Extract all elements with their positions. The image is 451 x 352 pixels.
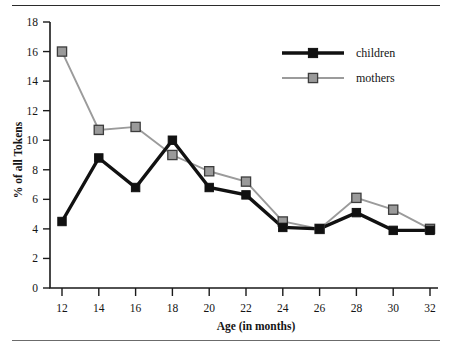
legend-label-mothers: mothers — [356, 71, 395, 85]
data-point-marker-children — [58, 217, 66, 225]
x-tick-label: 30 — [387, 302, 399, 314]
y-axis-ticks: 024681012141618 — [27, 16, 51, 294]
legend-label-children: children — [356, 46, 395, 60]
data-point-marker-mothers — [94, 125, 103, 134]
x-tick-label: 26 — [314, 302, 326, 314]
x-tick-label: 16 — [130, 302, 142, 314]
data-point-marker-mothers — [168, 150, 177, 159]
data-point-marker-children — [168, 136, 176, 144]
x-tick-label: 32 — [424, 302, 436, 314]
x-tick-label: 20 — [203, 302, 215, 314]
x-tick-label: 28 — [351, 302, 363, 314]
data-point-marker-mothers — [389, 205, 398, 214]
x-axis-ticks: 1214161820222426283032 — [56, 288, 436, 314]
y-tick-label: 16 — [27, 46, 39, 58]
line-chart-plot: 024681012141618 1214161820222426283032 c… — [0, 0, 451, 352]
x-tick-label: 22 — [240, 302, 252, 314]
y-tick-label: 12 — [27, 105, 39, 117]
data-point-marker-mothers — [57, 47, 66, 56]
axis-spines — [50, 22, 438, 288]
legend-swatch-marker-children — [308, 48, 317, 57]
data-point-marker-children — [95, 154, 103, 162]
x-tick-label: 18 — [167, 302, 179, 314]
y-tick-label: 2 — [32, 252, 38, 264]
data-point-marker-children — [389, 226, 397, 234]
y-axis-title: % of all Tokens — [12, 121, 24, 198]
legend-swatch-marker-mothers — [308, 73, 317, 82]
data-point-marker-children — [426, 226, 434, 234]
chart-legend: childrenmothers — [282, 46, 395, 85]
y-tick-label: 10 — [27, 134, 39, 146]
y-tick-label: 18 — [27, 16, 39, 28]
y-tick-label: 8 — [32, 164, 38, 176]
y-tick-label: 6 — [32, 193, 38, 205]
x-axis-title: Age (in months) — [217, 320, 296, 333]
x-tick-label: 12 — [56, 302, 68, 314]
data-point-marker-mothers — [241, 177, 250, 186]
y-tick-label: 4 — [32, 223, 38, 235]
chart-figure: 024681012141618 1214161820222426283032 c… — [0, 0, 451, 352]
x-tick-label: 24 — [277, 302, 289, 314]
data-point-marker-children — [352, 208, 360, 216]
data-point-marker-mothers — [205, 167, 214, 176]
data-point-marker-children — [131, 183, 139, 191]
y-tick-label: 0 — [32, 282, 38, 294]
data-point-marker-children — [242, 191, 250, 199]
data-point-marker-mothers — [352, 193, 361, 202]
data-point-marker-children — [279, 223, 287, 231]
data-point-marker-children — [205, 183, 213, 191]
axes-group — [50, 22, 438, 288]
data-point-marker-mothers — [131, 122, 140, 131]
x-tick-label: 14 — [93, 302, 105, 314]
data-point-marker-children — [315, 225, 323, 233]
y-tick-label: 14 — [27, 75, 39, 87]
